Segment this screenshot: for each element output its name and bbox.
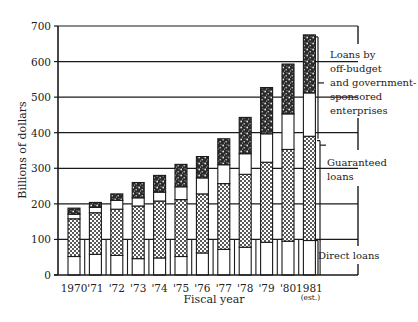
stacked-bar-chart: 0100200300400500600700 1970'71'72'73'74'… [0,0,418,322]
bar-segment [282,64,294,114]
bar-78 [239,117,251,275]
bar-segment [154,201,166,258]
y-tick-label: 0 [44,269,51,281]
bar-segment [196,178,208,194]
bar-segment [218,139,230,165]
legend-direct: Direct loans [318,250,379,261]
bar-segment [261,242,273,275]
y-tick-label: 400 [31,127,51,139]
bar-segment [196,253,208,275]
bar-segment [282,114,294,150]
bar-79 [261,88,273,275]
y-axis-ticks: 0100200300400500600700 [31,20,58,281]
svg-text:sponsored: sponsored [330,91,383,102]
bar-segment [175,200,187,257]
y-tick-label: 700 [31,20,51,32]
y-tick-label: 300 [31,162,51,174]
bar-74 [154,175,166,275]
bar-segment [303,93,315,136]
bar-segment [154,258,166,275]
bar-71 [89,202,101,275]
x-tick-label: '73 [130,282,146,294]
bar-segment [111,194,123,200]
legend-guaranteed: Guaranteed loans [327,157,387,182]
bar-segment [239,117,251,153]
bar-segment [132,206,144,259]
x-tick-label: 1970 [61,282,88,294]
x-tick-label: '72 [109,282,125,294]
y-tick-label: 600 [31,56,51,68]
bar-segment [111,200,123,209]
bar-73 [132,183,144,275]
bar-segment [282,149,294,241]
svg-text:Loans by: Loans by [330,49,376,60]
y-tick-label: 500 [31,91,51,103]
y-axis-title: Billions of dollars [16,101,29,199]
bar-76 [196,157,208,275]
bar-1981 [303,35,315,275]
bar-segment [196,194,208,253]
svg-text:and government-: and government- [330,77,416,88]
bar-segment [89,213,101,255]
bar-segment [239,174,251,247]
bar-segment [68,214,80,219]
bar-segment [154,175,166,192]
bar-segment [261,134,273,162]
bar-segment [218,184,230,250]
legend-offbudget: Loans by off-budget and government- spon… [330,49,416,116]
bar-segment [282,241,294,275]
svg-text:Direct loans: Direct loans [318,250,379,261]
bar-segment [68,219,80,257]
bar-segment [111,255,123,275]
bar-77 [218,139,230,275]
bar-segment [303,35,315,93]
bar-segment [89,202,101,207]
bar-80 [282,64,294,275]
y-tick-label: 100 [31,233,51,245]
bar-segment [175,164,187,186]
svg-text:off-budget: off-budget [330,63,382,74]
bar-segment [303,240,315,275]
bar-segment [303,136,315,240]
bar-75 [175,164,187,275]
x-tick-label: '80 [280,282,296,294]
bar-segment [68,257,80,275]
bar-segment [261,162,273,242]
estimate-note: (est.) [301,293,321,302]
bar-1970 [68,208,80,275]
bar-segment [239,247,251,275]
bar-segment [239,154,251,175]
bar-segment [132,259,144,275]
bar-segment [111,209,123,255]
bar-segment [196,157,208,178]
bar-segment [175,187,187,200]
bar-segment [89,207,101,212]
bar-segment [68,208,80,214]
svg-text:loans: loans [327,171,354,182]
bar-segment [132,198,144,206]
x-tick-label: '74 [151,282,168,294]
svg-text:enterprises: enterprises [330,105,388,116]
bar-segment [261,88,273,134]
bar-segment [154,192,166,201]
bar-segment [175,257,187,275]
bar-segment [89,254,101,275]
legend: Loans by off-budget and government- spon… [318,49,416,261]
x-tick-label: '79 [258,282,274,294]
svg-text:Guaranteed: Guaranteed [327,157,387,168]
bar-segment [132,183,144,198]
y-tick-label: 200 [31,198,51,210]
bar-72 [111,194,123,275]
x-axis-title: Fiscal year [183,293,245,306]
bar-segment [218,165,230,184]
x-tick-label: '71 [87,282,103,294]
bar-segment [218,249,230,275]
